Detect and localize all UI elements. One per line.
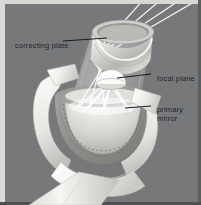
label-focal-plane: focal plane: [157, 74, 195, 83]
mirror-light-glow: [69, 97, 137, 115]
label-primary-mirror-line2: mirror: [157, 114, 201, 123]
label-primary-mirror-line1: primary: [157, 105, 201, 114]
telescope-diagram-figure: correcting plate focal plane primary mir…: [0, 0, 201, 205]
diagram-artwork: correcting plate focal plane primary mir…: [5, 4, 201, 205]
pier-column: [29, 172, 119, 205]
label-primary-mirror: primary mirror: [157, 105, 201, 123]
label-correcting-plate: correcting plate: [15, 41, 69, 50]
